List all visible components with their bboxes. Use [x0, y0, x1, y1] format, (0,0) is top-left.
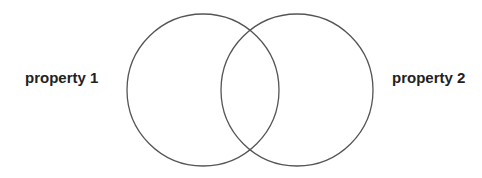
set-circle-property-2: [221, 14, 373, 166]
venn-circles: [0, 0, 482, 178]
venn-diagram: property 1 property 2: [0, 0, 482, 178]
set-circle-property-1: [127, 14, 279, 166]
set-label-property-1: property 1: [25, 69, 98, 87]
set-label-property-2: property 2: [392, 69, 465, 87]
